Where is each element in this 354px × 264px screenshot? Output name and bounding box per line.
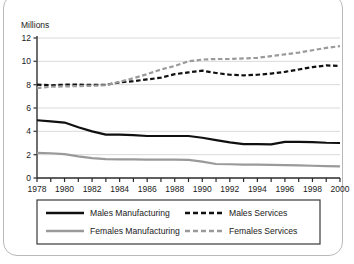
x-axis-ticks: 1978198019821984198619881990199219941996…: [28, 178, 350, 194]
y-tick-label-8: 8: [26, 80, 31, 90]
x-tick-label-1978: 1978: [28, 184, 47, 194]
data-series: [37, 46, 340, 166]
chart-canvas: 024681012 197819801982198419861988199019…: [0, 0, 354, 264]
x-tick-label-2000: 2000: [331, 184, 350, 194]
x-tick-label-1984: 1984: [110, 184, 129, 194]
x-tick-label-1992: 1992: [220, 184, 239, 194]
x-tick-label-1998: 1998: [303, 184, 322, 194]
chart-legend: Males ManufacturingMales ServicesFemales…: [37, 200, 320, 244]
y-axis-ticks: 024681012: [22, 33, 37, 183]
gridlines: [37, 38, 340, 155]
x-tick-label-1980: 1980: [55, 184, 74, 194]
y-tick-label-6: 6: [26, 103, 31, 113]
y-tick-label-4: 4: [26, 126, 31, 136]
x-tick-label-1982: 1982: [83, 184, 102, 194]
x-tick-label-1986: 1986: [138, 184, 157, 194]
y-tick-label-0: 0: [26, 173, 31, 183]
y-tick-label-12: 12: [22, 33, 32, 43]
series-line-females-services: [37, 46, 340, 88]
legend-label-females-services: Females Services: [229, 226, 297, 236]
y-tick-label-2: 2: [26, 150, 31, 160]
legend-label-males-manufacturing: Males Manufacturing: [90, 208, 170, 218]
legend-label-females-manufacturing: Females Manufacturing: [90, 226, 180, 236]
x-tick-label-1988: 1988: [165, 184, 184, 194]
chart-page: 024681012 197819801982198419861988199019…: [0, 0, 354, 264]
x-tick-label-1990: 1990: [193, 184, 212, 194]
series-line-males-manufacturing: [37, 120, 340, 144]
x-tick-label-1996: 1996: [275, 184, 294, 194]
y-axis-label: Millions: [21, 20, 49, 30]
series-line-males-services: [37, 65, 340, 85]
y-tick-label-10: 10: [22, 56, 32, 66]
legend-box: [37, 200, 320, 244]
line-chart: 024681012 197819801982198419861988199019…: [0, 0, 354, 264]
x-tick-label-1994: 1994: [248, 184, 267, 194]
legend-label-males-services: Males Services: [229, 208, 287, 218]
